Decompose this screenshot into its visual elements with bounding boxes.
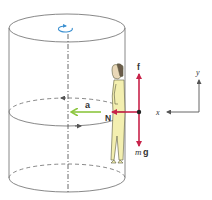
- normal-force-label: N: [105, 113, 111, 123]
- rotation-arrow-icon: [58, 26, 72, 32]
- rotor-diagram: a N f m g y x: [0, 0, 212, 200]
- weight-label-m: m: [135, 147, 142, 157]
- cylinder-top-rim: [9, 14, 125, 42]
- person-figure: [111, 64, 125, 163]
- weight-label-g: g: [143, 147, 149, 157]
- middle-section-back: [9, 98, 125, 112]
- cylinder: [9, 14, 125, 192]
- friction-force-label: f: [137, 62, 140, 72]
- acceleration-label: a: [85, 100, 91, 110]
- bottom-rim-back: [9, 164, 125, 178]
- particle-dot: [137, 110, 141, 114]
- y-axis-label: y: [195, 68, 200, 77]
- bottom-rim-front: [9, 178, 125, 192]
- x-axis-label: x: [155, 108, 160, 117]
